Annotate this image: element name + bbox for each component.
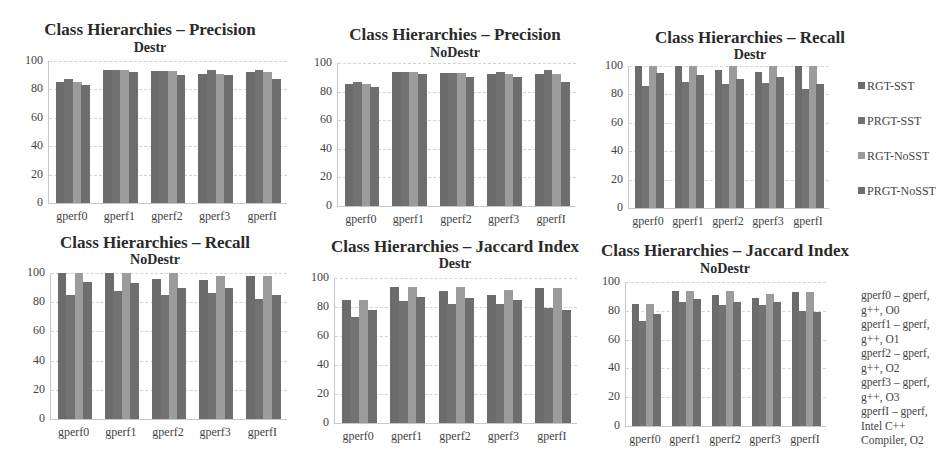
category-legend-line: g++, O0 — [861, 303, 930, 318]
category-legend-line: gperf3 – gperf, — [861, 375, 930, 390]
bar-rgt-nosst — [456, 287, 465, 423]
category-legend-line: gperf2 – gperf, — [861, 346, 930, 361]
chart-title: Class Hierarchies – Recall — [605, 28, 895, 48]
bar-prgt-sst — [255, 70, 264, 203]
legend-swatch-icon — [858, 82, 865, 89]
bar-prgt-nosst — [653, 314, 661, 426]
chart-subtitle: NoDestr — [10, 252, 300, 268]
bar-prgt-nosst — [368, 310, 377, 423]
x-tick-label: gperf0 — [333, 429, 383, 444]
y-tick-label: 40 — [17, 138, 43, 153]
bar-prgt-sst — [207, 70, 216, 203]
bar-prgt-sst — [401, 72, 410, 206]
chart-subtitle: NoDestr — [585, 261, 865, 277]
x-tick-label: gperf2 — [142, 209, 192, 224]
y-tick-label: 60 — [594, 332, 620, 347]
bar-rgt-nosst — [216, 74, 225, 203]
y-tick-label: 60 — [19, 323, 45, 338]
bar-rgt-sst — [246, 72, 255, 203]
bar-prgt-nosst — [513, 77, 522, 206]
chart-title: Class Hierarchies – Jaccard Index — [585, 241, 865, 261]
plot-area — [334, 278, 577, 424]
x-tick-label: gperf2 — [430, 429, 480, 444]
legend-item-rgt-sst: RGT-SST — [858, 79, 915, 94]
bar-rgt-nosst — [409, 72, 418, 206]
y-tick-label: 20 — [594, 389, 620, 404]
bar-prgt-nosst — [813, 312, 821, 426]
chart-jaccard-destr: Class Hierarchies – Jaccard Index Destr … — [300, 225, 610, 460]
x-tick-label: gperf3 — [190, 209, 240, 224]
bar-prgt-nosst — [561, 82, 570, 206]
chart-jaccard-nodestr: Class Hierarchies – Jaccard Index NoDest… — [585, 225, 835, 460]
bar-prgt-sst — [112, 70, 121, 203]
legend-item-prgt-nosst: PRGT-NoSST — [858, 184, 936, 199]
plot-area — [337, 63, 576, 207]
bar-prgt-sst — [496, 72, 505, 206]
category-legend-line: Compiler, O2 — [861, 433, 930, 448]
bar-rgt-nosst — [408, 287, 417, 423]
legend-swatch-icon — [858, 187, 865, 194]
bar-rgt-nosst — [216, 276, 225, 419]
category-legend: gperf0 – gperf,g++, O0gperf1 – gperf,g++… — [861, 288, 930, 448]
bar-prgt-sst — [159, 71, 168, 203]
y-tick-label: 40 — [306, 141, 332, 156]
bar-rgt-sst — [439, 291, 448, 423]
y-tick-label: 60 — [303, 328, 329, 343]
bar-prgt-nosst — [177, 75, 186, 203]
bar-rgt-sst — [535, 288, 544, 423]
x-tick-label: gperfI — [780, 432, 830, 447]
bar-prgt-sst — [161, 295, 170, 419]
bar-rgt-sst — [535, 74, 544, 206]
bar-rgt-sst — [487, 74, 496, 206]
bar-rgt-nosst — [263, 276, 272, 419]
y-tick-label: 0 — [19, 411, 45, 426]
bar-rgt-sst — [487, 295, 496, 423]
bar-prgt-nosst — [416, 297, 425, 423]
chart-subtitle: Destr — [0, 40, 300, 56]
y-tick-label: 40 — [303, 357, 329, 372]
y-tick-label: 80 — [594, 303, 620, 318]
bar-rgt-nosst — [73, 82, 82, 203]
bar-rgt-nosst — [263, 72, 272, 203]
category-legend-line: gperf0 – gperf, — [861, 288, 930, 303]
y-tick-label: 80 — [19, 294, 45, 309]
plot-area — [625, 282, 826, 427]
plot-area — [628, 66, 829, 209]
chart-title: Class Hierarchies – Precision — [0, 20, 300, 40]
plot-area — [50, 273, 287, 420]
plot-area — [48, 61, 287, 204]
y-tick-label: 20 — [303, 386, 329, 401]
bar-prgt-sst — [447, 304, 456, 423]
bar-prgt-nosst — [272, 79, 281, 203]
legend-item-rgt-nosst: RGT-NoSST — [858, 149, 929, 164]
legend-item-prgt-sst: PRGT-SST — [858, 114, 921, 129]
bar-rgt-sst — [199, 280, 208, 419]
gridline — [338, 63, 576, 64]
x-tick-label: gperf0 — [47, 209, 97, 224]
y-tick-label: 100 — [597, 58, 623, 73]
bar-prgt-sst — [208, 293, 217, 419]
y-tick-label: 100 — [306, 55, 332, 70]
bar-prgt-nosst — [466, 77, 475, 206]
x-tick-label: gperfI — [237, 425, 287, 440]
chart-recall-destr: Class Hierarchies – Recall Destr 0204060… — [585, 0, 835, 225]
bar-prgt-sst — [353, 82, 362, 206]
y-tick-label: 60 — [597, 115, 623, 130]
y-tick-label: 0 — [597, 200, 623, 215]
y-tick-label: 0 — [594, 418, 620, 433]
category-legend-line: Intel C++ — [861, 419, 930, 434]
chart-title: Class Hierarchies – Recall — [10, 233, 300, 253]
bar-prgt-nosst — [224, 75, 233, 203]
bar-rgt-nosst — [122, 273, 131, 419]
y-tick-label: 0 — [17, 195, 43, 210]
y-tick-label: 40 — [597, 143, 623, 158]
chart-precision-destr: Class Hierarchies – Precision Destr 0204… — [0, 0, 300, 225]
bar-rgt-sst — [198, 74, 207, 203]
bar-prgt-nosst — [465, 298, 474, 423]
bar-prgt-nosst — [177, 288, 186, 419]
legend-swatch-icon — [858, 152, 865, 159]
x-tick-label: gperfI — [237, 209, 287, 224]
y-tick-label: 20 — [306, 169, 332, 184]
bar-prgt-sst — [255, 299, 264, 419]
bar-prgt-nosst — [129, 72, 138, 203]
